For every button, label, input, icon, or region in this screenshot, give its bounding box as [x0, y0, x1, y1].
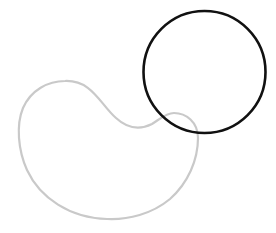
diagram-canvas — [0, 0, 276, 233]
shapes-drawing — [0, 0, 276, 233]
circle-outline — [144, 11, 266, 133]
kidney-shape-outline — [19, 81, 198, 219]
